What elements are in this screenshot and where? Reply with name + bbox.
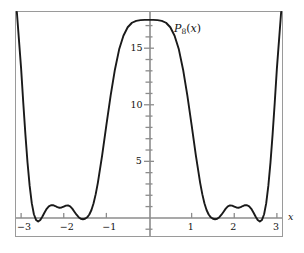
x-tick-label: −2 xyxy=(60,222,74,232)
axes-group xyxy=(16,12,282,236)
x-tick-label: −3 xyxy=(17,222,31,232)
x-tick-label: −1 xyxy=(102,222,116,232)
y-tick-label: 15 xyxy=(130,43,142,53)
x-axis-ticks xyxy=(21,213,277,218)
chart-canvas xyxy=(0,0,304,253)
curve-annotation-label: P8(x) xyxy=(174,22,201,35)
x-tick-label: 1 xyxy=(188,222,194,232)
x-axis-label: x xyxy=(288,211,293,222)
y-tick-label: 5 xyxy=(136,156,142,166)
curve-label-subscript: 8 xyxy=(181,27,186,36)
y-axis-ticks xyxy=(144,26,154,230)
x-tick-label: 2 xyxy=(230,222,236,232)
figure-container: P8(x) −3−2−112351015 x xyxy=(0,0,304,253)
x-tick-label: 3 xyxy=(273,222,279,232)
y-tick-label: 10 xyxy=(130,100,142,110)
polynomial-curve xyxy=(17,12,281,222)
curve-label-arg: (x) xyxy=(186,22,201,35)
